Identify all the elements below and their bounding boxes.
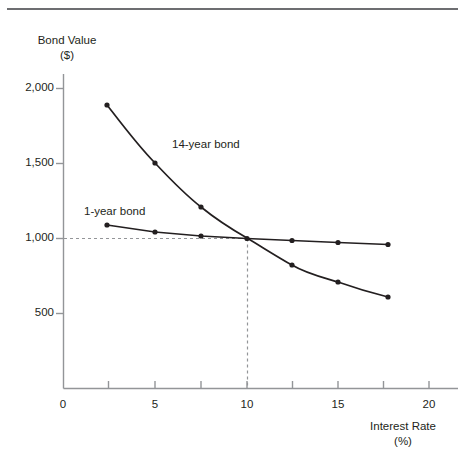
data-point [385,294,390,299]
data-point [289,262,294,267]
data-point [152,229,157,234]
guide-lines [64,239,248,389]
data-point [335,279,340,284]
data-point [104,102,109,107]
axis-lines [64,74,459,389]
data-point [335,240,340,245]
bond-value-chart-figure: Bond Value ($) Interest Rate (%) 2,000 1… [0,0,465,454]
data-point [198,204,203,209]
data-point [289,238,294,243]
data-point [244,236,249,241]
data-point [385,242,390,247]
data-point [104,222,109,227]
data-point [198,233,203,238]
series-line-1-year-bond [107,225,388,245]
x-axis-ticks [109,381,430,389]
data-point [152,160,157,165]
series-line-14-year-bond [107,105,388,297]
plot-area [0,0,465,454]
y-axis-ticks [56,89,64,314]
